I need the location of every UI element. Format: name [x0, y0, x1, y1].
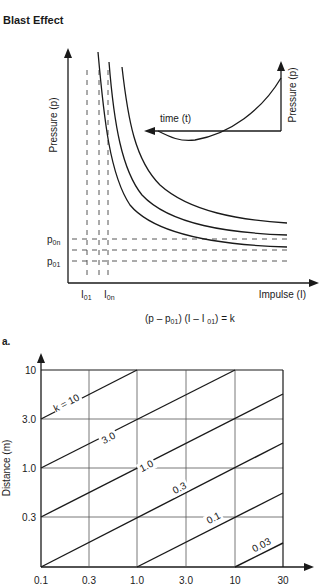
pressure-asymptotes: [72, 239, 287, 261]
k-line-0.3: [41, 443, 283, 567]
impulse-axis-arrow-icon: [309, 279, 319, 287]
pressure-axis-arrow-icon: [64, 48, 72, 58]
x-axis-arrow-icon: [304, 563, 314, 571]
x-tick: 3.0: [179, 575, 193, 586]
y-tick: 1.0: [22, 463, 36, 474]
distance-chart: k = 10 3.0 1.0 0.3 0.1 0.03: [1, 353, 314, 586]
pressure-axis-label: Pressure (p): [48, 97, 59, 152]
y-tick: 0.3: [22, 512, 36, 523]
inset-time-label: time (t): [160, 113, 191, 124]
x-tick: 0.3: [82, 575, 96, 586]
pressure-impulse-diagram: p0n p01 I01 I0n Pressure (p) Impulse (I)…: [47, 48, 319, 325]
inset-pressure-label: Pressure (p): [287, 67, 298, 122]
panel-label: a.: [2, 336, 11, 347]
i0n-label: I0n: [104, 289, 115, 301]
pressure-time-inset: time (t) Pressure (p): [144, 61, 298, 140]
k-label-10: k = 10: [52, 392, 82, 414]
p01-label: p01: [47, 256, 60, 268]
x-tick: 1.0: [130, 575, 144, 586]
k-line-1: [41, 394, 283, 517]
x-tick: 10: [229, 575, 241, 586]
x-tick-labels: 0.1 0.3 1.0 3.0 10 30: [34, 575, 289, 586]
impulse-asymptotes: [87, 70, 108, 278]
iso-damage-curves: [98, 52, 287, 247]
equation: (p – p01) (I – I 01) = k: [145, 313, 236, 325]
impulse-axis-label: Impulse (I): [259, 289, 306, 300]
inset-pressure-arrow-icon: [277, 61, 285, 71]
y-tick-labels: 10 3.0 1.0 0.3: [22, 365, 36, 523]
figure-canvas: p0n p01 I01 I0n Pressure (p) Impulse (I)…: [0, 0, 333, 586]
y-tick: 3.0: [22, 414, 36, 425]
inset-time-arrow-icon: [144, 127, 155, 135]
i01-label: I01: [81, 289, 92, 301]
x-tick: 0.1: [34, 575, 48, 586]
y-tick: 10: [25, 365, 37, 376]
distance-axis-arrow-icon: [37, 353, 45, 363]
y-axis-label: Distance (m): [1, 440, 12, 497]
x-tick: 30: [277, 575, 289, 586]
p0n-label: p0n: [47, 234, 60, 246]
k-line-0.1: [137, 493, 283, 567]
